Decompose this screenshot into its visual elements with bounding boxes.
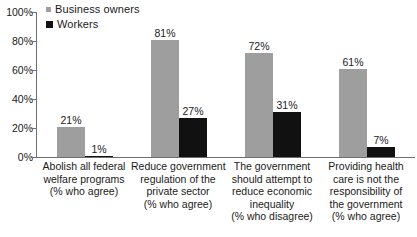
category-label-4: Providing health care is not the respons… <box>319 160 413 223</box>
category-label-4-line-1: Providing health <box>319 160 413 173</box>
category-label-3-line-1: The government <box>225 160 319 173</box>
bar-group-3: 72% 31% <box>225 12 319 157</box>
category-label-2-line-2: regulation of the <box>131 173 225 186</box>
bar-workers-4[interactable] <box>367 147 395 157</box>
bar-group-4: 61% 7% <box>319 12 413 157</box>
category-label-4-line-3: responsibility of <box>319 185 413 198</box>
category-label-4-line-5: (% who agree) <box>319 210 413 223</box>
category-label-2-line-3: private sector <box>131 185 225 198</box>
category-label-2: Reduce government regulation of the priv… <box>131 160 225 210</box>
category-label-4-line-4: the government <box>319 198 413 211</box>
y-tick-label-100: 100% <box>2 7 33 17</box>
plot-area: 21% 1% 81% 27% 72% 31% 61% 7% <box>37 12 415 157</box>
bar-workers-1[interactable] <box>85 156 113 157</box>
category-label-3-line-2: should attempt to <box>225 173 319 186</box>
bar-workers-3[interactable] <box>273 112 301 157</box>
category-label-2-line-4: (% who agree) <box>131 198 225 211</box>
bar-value-owners-2: 81% <box>145 28 185 39</box>
bar-value-workers-4: 7% <box>361 135 401 146</box>
category-label-4-line-2: care is not the <box>319 173 413 186</box>
category-label-1-line-1: Abolish all federal <box>37 160 131 173</box>
bar-group-2: 81% 27% <box>131 12 225 157</box>
x-axis-categories: Abolish all federal welfare programs (% … <box>37 160 415 237</box>
category-label-3-line-4: inequality <box>225 198 319 211</box>
bar-value-workers-2: 27% <box>173 106 213 117</box>
bar-value-owners-1: 21% <box>51 115 91 126</box>
category-label-3-line-3: reduce economic <box>225 185 319 198</box>
category-label-2-line-1: Reduce government <box>131 160 225 173</box>
y-tick-label-60: 60% <box>2 65 33 75</box>
bar-value-owners-4: 61% <box>333 57 373 68</box>
bar-value-workers-3: 31% <box>267 100 307 111</box>
category-label-1-line-3: (% who agree) <box>37 185 131 198</box>
y-axis: 100% 80% 60% 40% 20% 0% <box>0 0 33 237</box>
category-label-3-line-5: (% who disagree) <box>225 210 319 223</box>
category-label-1-line-2: welfare programs <box>37 173 131 186</box>
y-tick-label-40: 40% <box>2 94 33 104</box>
y-tick-label-20: 20% <box>2 123 33 133</box>
square-gray-icon <box>46 7 51 12</box>
bar-value-workers-1: 1% <box>79 144 119 155</box>
category-label-3: The government should attempt to reduce … <box>225 160 319 223</box>
category-label-1: Abolish all federal welfare programs (% … <box>37 160 131 198</box>
bar-chart: Business owners Workers 100% 80% 60% 40%… <box>0 0 417 237</box>
bar-value-owners-3: 72% <box>239 41 279 52</box>
bar-group-1: 21% 1% <box>37 12 131 157</box>
bar-owners-2[interactable] <box>151 40 179 157</box>
y-tick-label-80: 80% <box>2 36 33 46</box>
y-tick-label-0: 0% <box>2 152 33 162</box>
x-axis-line <box>36 157 415 158</box>
bar-workers-2[interactable] <box>179 118 207 157</box>
